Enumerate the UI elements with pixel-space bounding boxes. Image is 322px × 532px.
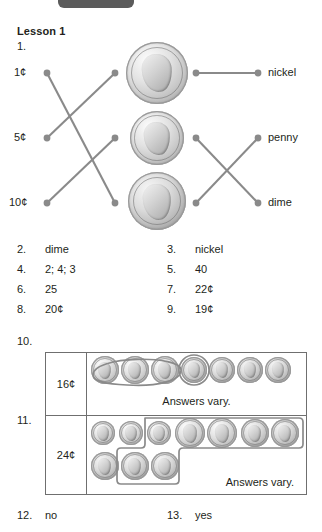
coin-nickel xyxy=(91,356,119,384)
row-11-amount: 24¢ xyxy=(46,416,87,494)
answer-6-value: 25 xyxy=(45,283,57,295)
match-right-label-nickel: nickel xyxy=(268,66,296,78)
table-row-11-number: 11. xyxy=(17,414,31,426)
answer-3-number: 3. xyxy=(167,243,187,255)
answer-row: 8. 20¢ 9. 19¢ xyxy=(17,303,307,323)
answer-row: 12. no 13. yes xyxy=(17,509,307,529)
coin-penny xyxy=(241,419,269,447)
answer-6-number: 6. xyxy=(17,283,37,295)
coin-penny xyxy=(128,172,186,230)
coin-nickel xyxy=(151,356,179,384)
match-right-label-penny: penny xyxy=(268,131,298,143)
top-tab-cutoff xyxy=(58,0,134,8)
match-left-label-3: 10¢ xyxy=(9,196,27,208)
answer-12-value: no xyxy=(45,509,57,521)
coin-nickel xyxy=(207,418,237,448)
row-10-amount: 16¢ xyxy=(46,353,87,415)
coin-nickel xyxy=(121,356,149,384)
coin-penny xyxy=(121,452,149,480)
coin-nickel xyxy=(175,418,205,448)
answer-12-number: 12. xyxy=(17,509,37,521)
answer-8-number: 8. xyxy=(17,303,37,315)
coin-dime xyxy=(147,421,171,445)
match-right-label-dime: dime xyxy=(268,196,292,208)
coin-penny xyxy=(265,357,291,383)
answer-13-value: yes xyxy=(195,509,212,521)
coin-table: 16¢ Answers vary. 24¢ xyxy=(45,352,307,495)
answer-list: 2. dime 3. nickel 4. 2; 4; 3 5. 40 6. 25 xyxy=(17,243,307,323)
coin-nickel xyxy=(126,42,188,104)
table-row: 16¢ Answers vary. xyxy=(46,353,306,415)
answer-3-value: nickel xyxy=(195,243,223,255)
page-title: Lesson 1 xyxy=(17,25,66,37)
coin-penny xyxy=(271,419,299,447)
answer-9-value: 19¢ xyxy=(195,303,213,315)
answer-row: 4. 2; 4; 3 5. 40 xyxy=(17,263,307,283)
answer-2-value: dime xyxy=(45,243,69,255)
worksheet-page: Lesson 1 1. xyxy=(0,0,322,532)
coin-penny xyxy=(237,357,263,383)
coin-dime xyxy=(91,421,115,445)
matching-diagram: 1¢ 5¢ 10¢ nickel penny dime xyxy=(0,55,322,225)
answer-4-value: 2; 4; 3 xyxy=(45,263,76,275)
answer-4-number: 4. xyxy=(17,263,37,275)
answer-8-value: 20¢ xyxy=(45,303,63,315)
answer-row: 2. dime 3. nickel xyxy=(17,243,307,263)
table-row: 24¢ Answers vary. xyxy=(46,415,306,494)
footer-answers: 12. no 13. yes xyxy=(17,509,307,529)
question-1-number: 1. xyxy=(17,40,26,52)
table-row-10-number: 10. xyxy=(17,335,32,347)
answer-13-number: 13. xyxy=(167,509,187,521)
answer-5-number: 5. xyxy=(167,263,187,275)
answer-7-value: 22¢ xyxy=(195,283,213,295)
row-11-note: Answers vary. xyxy=(226,476,294,488)
coin-dime xyxy=(119,421,143,445)
answer-5-value: 40 xyxy=(195,263,207,275)
coin-penny xyxy=(209,357,235,383)
match-left-label-1: 1¢ xyxy=(14,66,26,78)
answer-row: 6. 25 7. 22¢ xyxy=(17,283,307,303)
coin-dime xyxy=(130,111,184,165)
row-10-note: Answers vary. xyxy=(162,395,230,407)
answer-2-number: 2. xyxy=(17,243,37,255)
match-left-label-2: 5¢ xyxy=(14,131,26,143)
answer-9-number: 9. xyxy=(167,303,187,315)
coin-penny xyxy=(181,357,207,383)
row-10-coins: Answers vary. xyxy=(87,353,306,415)
answer-7-number: 7. xyxy=(167,283,187,295)
row-11-coins: Answers vary. xyxy=(87,416,306,494)
coin-penny xyxy=(151,452,179,480)
coin-penny xyxy=(91,452,119,480)
